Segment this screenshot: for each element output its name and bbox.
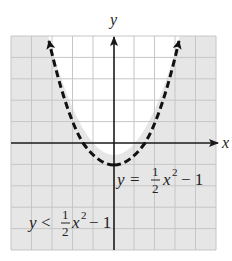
svg-text:x: x bbox=[162, 170, 171, 189]
svg-text:=: = bbox=[130, 170, 140, 189]
inequality-graph: x y y = 1 2 x 2 − 1 y < 1 2 x 2 − 1 bbox=[0, 0, 232, 261]
svg-text:1: 1 bbox=[62, 207, 69, 222]
svg-text:2: 2 bbox=[81, 209, 87, 221]
svg-text:<: < bbox=[41, 213, 51, 232]
svg-text:x: x bbox=[71, 213, 80, 232]
svg-text:2: 2 bbox=[152, 181, 159, 196]
svg-text:2: 2 bbox=[172, 166, 178, 178]
x-axis-label: x bbox=[221, 134, 229, 151]
svg-text:y: y bbox=[115, 170, 125, 189]
svg-text:− 1: − 1 bbox=[89, 213, 111, 232]
y-axis-label: y bbox=[108, 11, 118, 29]
svg-text:2: 2 bbox=[62, 224, 69, 239]
boundary-equation-label: y = 1 2 x 2 − 1 bbox=[115, 163, 216, 199]
svg-text:y: y bbox=[27, 213, 37, 232]
svg-text:1: 1 bbox=[152, 164, 159, 179]
svg-text:− 1: − 1 bbox=[181, 170, 203, 189]
